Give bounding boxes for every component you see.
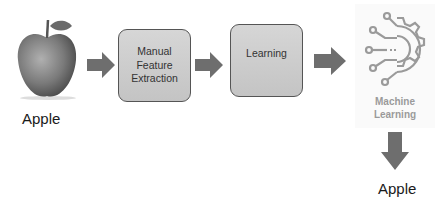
arrow-right-icon [314, 47, 346, 75]
machine-learning-panel: Machine Learning [355, 4, 435, 128]
arrow-right-icon [87, 52, 115, 78]
manual-feature-extraction-box: Manual Feature Extraction [118, 29, 191, 102]
arrow-down-icon [381, 132, 409, 170]
ml-label-line: Machine [355, 96, 435, 109]
input-label: Apple [22, 110, 60, 127]
step-label-line: Learning [246, 47, 287, 61]
machine-learning-gear-circuit-icon [363, 10, 427, 90]
apple-image [12, 10, 82, 100]
apple-icon [12, 10, 82, 100]
learning-box: Learning [230, 24, 303, 97]
step-label-line: Manual [131, 45, 178, 59]
arrow-right-icon [195, 52, 223, 78]
ml-label-line: Learning [355, 109, 435, 122]
output-label: Apple [378, 180, 416, 197]
step-label-line: Extraction [131, 72, 178, 86]
machine-learning-label: Machine Learning [355, 96, 435, 121]
step-label-line: Feature [131, 59, 178, 73]
